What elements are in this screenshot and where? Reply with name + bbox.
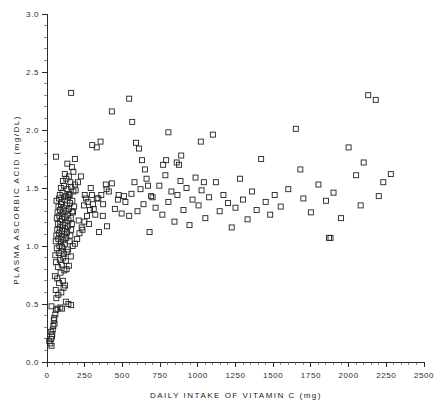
data-point	[127, 96, 132, 101]
data-point	[199, 188, 204, 193]
data-point	[140, 158, 145, 163]
data-point	[97, 230, 102, 235]
y-axis: 0.00.51.01.52.02.53.0	[26, 10, 47, 367]
data-point	[339, 216, 344, 221]
data-point	[153, 205, 158, 210]
data-point	[132, 180, 137, 185]
data-point	[190, 197, 195, 202]
data-point	[84, 213, 89, 218]
y-tick-label: 2.0	[26, 126, 39, 135]
data-point	[254, 208, 259, 213]
data-point	[146, 183, 151, 188]
data-point	[127, 213, 132, 218]
data-point	[172, 219, 177, 224]
data-point	[181, 208, 186, 213]
data-point	[381, 180, 386, 185]
data-point	[233, 205, 238, 210]
data-point	[163, 173, 168, 178]
data-point	[136, 146, 141, 151]
data-point	[316, 182, 321, 187]
data-point	[193, 175, 198, 180]
data-point	[135, 209, 140, 214]
data-point	[201, 180, 206, 185]
data-point	[88, 186, 93, 191]
data-point	[130, 119, 135, 124]
data-point	[263, 199, 268, 204]
data-point	[217, 209, 222, 214]
x-tick-label: 250	[77, 371, 92, 380]
data-point	[286, 187, 291, 192]
x-axis: 02505007501000125015001750200022502500	[44, 362, 434, 380]
data-point	[328, 235, 333, 240]
data-point	[147, 230, 152, 235]
data-point	[101, 202, 106, 207]
y-tick-label: 0.5	[26, 300, 39, 309]
data-points-layer	[47, 90, 394, 348]
data-point	[160, 212, 165, 217]
x-tick-label: 2000	[338, 371, 358, 380]
data-point	[272, 192, 277, 197]
data-point	[100, 213, 105, 218]
data-point	[129, 191, 134, 196]
x-tick-label: 0	[44, 371, 49, 380]
y-tick-label: 0.0	[26, 358, 39, 367]
data-point	[298, 167, 303, 172]
data-point	[83, 196, 88, 201]
data-point	[268, 212, 273, 217]
x-tick-label: 2500	[414, 371, 434, 380]
data-point	[157, 183, 162, 188]
data-point	[373, 97, 378, 102]
data-point	[203, 216, 208, 221]
y-tick-label: 1.5	[26, 184, 39, 193]
data-point	[323, 198, 328, 203]
data-point	[82, 192, 87, 197]
scatter-plot-figure: 0.00.51.01.52.02.53.0 025050075010001250…	[0, 0, 438, 406]
data-point	[358, 203, 363, 208]
data-point	[376, 194, 381, 199]
data-point	[138, 187, 143, 192]
data-point	[293, 126, 298, 131]
data-point	[331, 190, 336, 195]
data-point	[250, 189, 255, 194]
x-tick-label: 1000	[188, 371, 208, 380]
x-tick-label: 1250	[225, 371, 245, 380]
data-point	[105, 224, 110, 229]
data-point	[69, 90, 74, 95]
data-point	[119, 211, 124, 216]
data-point	[143, 167, 148, 172]
data-point	[196, 203, 201, 208]
data-point	[78, 174, 83, 179]
data-point	[89, 192, 94, 197]
data-point	[141, 202, 146, 207]
data-point	[166, 199, 171, 204]
data-point	[123, 199, 128, 204]
y-tick-label: 2.5	[26, 68, 39, 77]
data-point	[144, 176, 149, 181]
data-point	[166, 130, 171, 135]
x-axis-title: DAILY INTAKE OF VITAMIN C (mg)	[150, 391, 322, 400]
x-tick-label: 1500	[263, 371, 283, 380]
data-point	[187, 223, 192, 228]
data-point	[238, 176, 243, 181]
x-tick-label: 1750	[301, 371, 321, 380]
y-tick-label: 1.0	[26, 242, 39, 251]
data-point	[81, 203, 86, 208]
data-point	[346, 145, 351, 150]
data-point	[98, 139, 103, 144]
data-point	[178, 179, 183, 184]
data-point	[133, 140, 138, 145]
data-point	[213, 180, 218, 185]
plot-canvas: 0.00.51.01.52.02.53.0 025050075010001250…	[0, 0, 438, 406]
data-point	[225, 201, 230, 206]
data-point	[54, 154, 59, 159]
data-point	[245, 217, 250, 222]
data-point	[361, 160, 366, 165]
data-point	[229, 225, 234, 230]
data-point	[259, 157, 264, 162]
data-point	[96, 196, 101, 201]
data-point	[179, 153, 184, 158]
data-point	[354, 173, 359, 178]
data-point	[109, 109, 114, 114]
data-point	[221, 192, 226, 197]
data-point	[308, 210, 313, 215]
